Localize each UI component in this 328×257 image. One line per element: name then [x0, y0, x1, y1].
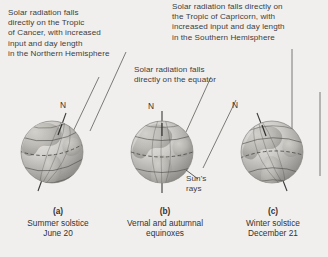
- globe-c: [240, 113, 306, 191]
- annotation-tropic-of-cancer: Solar radiation falls directly on the Tr…: [8, 8, 158, 59]
- caption-c-letter: (c): [222, 206, 324, 217]
- caption-a: (a) Summer solstice June 20: [6, 206, 110, 239]
- caption-a-letter: (a): [6, 206, 110, 217]
- annotation-suns-rays: Sun's rays: [186, 174, 206, 193]
- annotation-tropic-of-capricorn: Solar radiation falls directly on the Tr…: [172, 2, 326, 43]
- globe-a: [19, 113, 85, 191]
- caption-b: (b) Vernal and autumnal equinoxes: [110, 206, 220, 239]
- caption-b-letter: (b): [110, 206, 220, 217]
- caption-a-line1: Summer solstice: [27, 218, 88, 228]
- globe-b: [131, 111, 193, 193]
- globe-b-north-pole-label: N: [148, 102, 154, 111]
- globe-c-north-pole-label: N: [232, 101, 238, 110]
- caption-b-line1: Vernal and autumnal: [127, 218, 203, 228]
- caption-c-line1: Winter solstice: [246, 218, 300, 228]
- annotation-equator: Solar radiation falls directly on the eq…: [134, 65, 246, 85]
- caption-b-line2: equinoxes: [146, 228, 184, 238]
- globe-a-north-pole-label: N: [60, 101, 66, 110]
- sun-ray-line-2: [90, 52, 126, 131]
- caption-c: (c) Winter solstice December 21: [222, 206, 324, 239]
- seasons-diagram: Solar radiation falls directly on the Tr…: [0, 0, 328, 257]
- caption-c-line2: December 21: [248, 228, 298, 238]
- sun-ray-line-4: [203, 100, 236, 168]
- caption-a-line2: June 20: [43, 228, 73, 238]
